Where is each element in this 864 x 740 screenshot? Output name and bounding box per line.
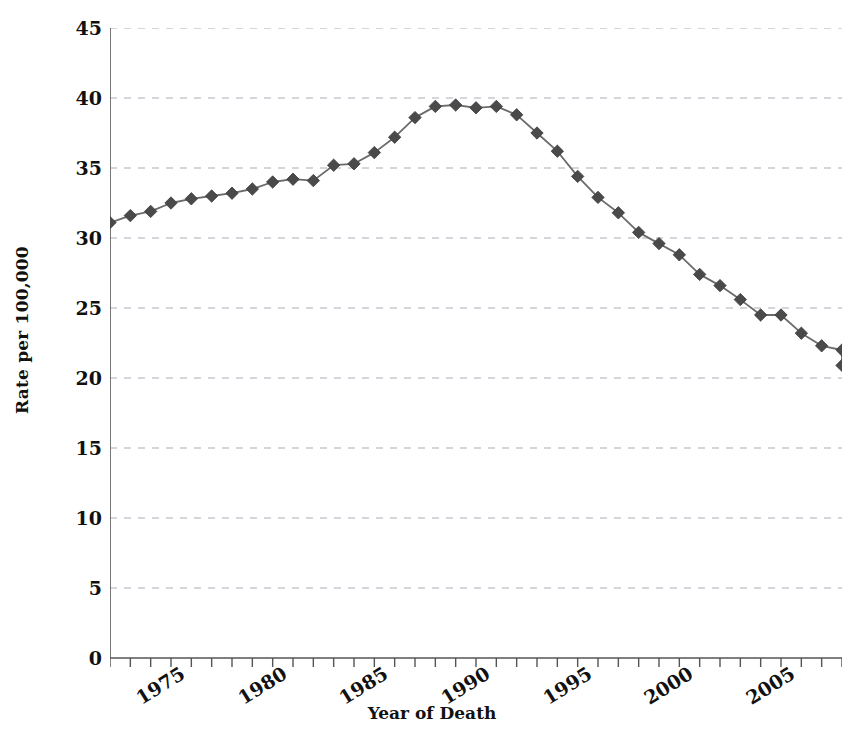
y-axis-title-text: Rate per 100,000	[12, 246, 32, 414]
x-axis-tick-label: 1985	[335, 662, 392, 709]
data-point-marker	[266, 176, 278, 188]
y-axis-tick-label: 25	[56, 297, 102, 319]
x-axis-tick-label: 1980	[234, 662, 291, 709]
y-axis-tick-label: 15	[56, 437, 102, 459]
data-point-marker	[653, 237, 665, 249]
data-point-marker	[246, 183, 258, 195]
x-axis-tick-label: 1995	[539, 662, 596, 709]
y-axis-tick-label: 45	[56, 17, 102, 39]
y-axis-tick-label: 35	[56, 157, 102, 179]
series-markers	[110, 99, 842, 372]
y-axis-tick-label: 20	[56, 367, 102, 389]
data-point-marker	[165, 197, 177, 209]
y-axis-tick-label: 10	[56, 507, 102, 529]
data-point-marker	[449, 99, 461, 111]
x-axis-title: Year of Death	[0, 703, 864, 723]
data-point-marker	[490, 100, 502, 112]
data-point-marker	[836, 359, 842, 371]
x-axis-tick-label: 1975	[132, 662, 189, 709]
data-point-marker	[470, 102, 482, 114]
plot-area	[110, 28, 842, 658]
data-point-marker	[124, 209, 136, 221]
data-point-marker	[714, 279, 726, 291]
y-axis-tick-labels: 051015202530354045	[44, 0, 102, 740]
y-axis-tick-label: 40	[56, 87, 102, 109]
data-point-marker	[287, 173, 299, 185]
x-axis-tick-label: 1990	[437, 662, 494, 709]
data-point-marker	[815, 340, 827, 352]
chart-svg	[110, 28, 842, 688]
data-point-marker	[205, 190, 217, 202]
y-axis-title: Rate per 100,000	[0, 0, 44, 660]
data-point-marker	[226, 187, 238, 199]
data-point-marker	[110, 216, 116, 228]
x-axis-tick-label: 2000	[640, 662, 697, 709]
data-point-marker	[144, 205, 156, 217]
data-point-marker	[429, 100, 441, 112]
data-point-marker	[185, 193, 197, 205]
data-point-marker	[836, 344, 842, 356]
y-axis-tick-label: 5	[56, 577, 102, 599]
x-axis-tick-label: 2005	[742, 662, 799, 709]
chart-figure: Rate per 100,000 051015202530354045 1975…	[0, 0, 864, 740]
series-line	[110, 105, 842, 365]
y-axis-tick-label: 30	[56, 227, 102, 249]
